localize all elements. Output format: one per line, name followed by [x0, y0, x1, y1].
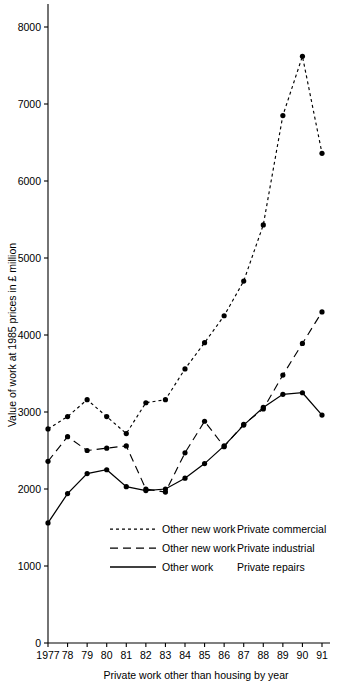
data-point: [300, 54, 305, 59]
data-point: [124, 484, 129, 489]
data-point: [319, 151, 324, 156]
x-axis-tick-label: 78: [62, 649, 74, 661]
data-point: [182, 476, 187, 481]
x-axis-tick-label: 89: [277, 649, 289, 661]
series-line-2: [48, 393, 322, 523]
legend-label-right: Private industrial: [237, 542, 315, 554]
y-axis-tick-label: 5000: [18, 252, 42, 264]
x-axis-tick-label: 79: [81, 649, 93, 661]
data-point: [104, 414, 109, 419]
y-axis-tick-label: 4000: [18, 329, 42, 341]
x-axis-tick-label: 91: [316, 649, 328, 661]
x-axis-tick-label: 80: [101, 649, 113, 661]
data-point: [300, 341, 305, 346]
y-axis-tick-label: 8000: [18, 21, 42, 33]
x-axis-title: Private work other than housing by year: [103, 669, 289, 681]
legend-label-right: Private commercial: [237, 523, 326, 535]
series-line-1: [48, 312, 322, 492]
line-chart: 010002000300040005000600070008000 197778…: [0, 0, 348, 685]
legend-label-left: Other work: [162, 561, 214, 573]
chart-legend: Other new workPrivate commercialOther ne…: [110, 523, 326, 573]
data-point: [241, 279, 246, 284]
y-axis-tick-label: 3000: [18, 406, 42, 418]
data-point: [104, 467, 109, 472]
data-point: [202, 419, 207, 424]
y-axis-tick-label: 7000: [18, 98, 42, 110]
data-point: [85, 448, 90, 453]
data-point: [319, 309, 324, 314]
x-axis-tick-label: 82: [140, 649, 152, 661]
y-axis-tick-label: 1000: [18, 560, 42, 572]
legend-label-left: Other new work: [162, 523, 236, 535]
x-axis-tick-label: 84: [179, 649, 191, 661]
data-point: [280, 392, 285, 397]
y-axis-title: Value of work at 1985 prices in £ millio…: [6, 243, 18, 427]
y-axis-tick-label: 2000: [18, 483, 42, 495]
data-point: [300, 390, 305, 395]
data-point: [85, 471, 90, 476]
x-axis-tick-label: 86: [218, 649, 230, 661]
chart-figure: 010002000300040005000600070008000 197778…: [0, 0, 348, 685]
legend-label-right: Private repairs: [237, 561, 305, 573]
data-point: [124, 443, 129, 448]
data-point: [222, 443, 227, 448]
data-point: [261, 222, 266, 227]
data-point: [182, 450, 187, 455]
series-line-0: [48, 56, 322, 433]
data-point: [104, 446, 109, 451]
data-point: [163, 397, 168, 402]
x-axis-tick-label: 1977: [36, 649, 60, 661]
data-point: [65, 434, 70, 439]
data-point: [202, 461, 207, 466]
data-point: [222, 313, 227, 318]
y-axis: 010002000300040005000600070008000: [18, 4, 48, 649]
data-point: [143, 488, 148, 493]
data-point: [124, 431, 129, 436]
x-axis-tick-label: 90: [297, 649, 309, 661]
data-point: [143, 400, 148, 405]
x-axis: 19777879808182838485868788899091: [36, 643, 330, 661]
data-point: [163, 486, 168, 491]
x-axis-tick-label: 87: [238, 649, 250, 661]
data-point: [261, 405, 266, 410]
data-point: [85, 397, 90, 402]
data-point: [280, 372, 285, 377]
y-axis-tick-label: 6000: [18, 175, 42, 187]
data-point: [319, 412, 324, 417]
legend-label-left: Other new work: [162, 542, 236, 554]
data-series-group: [45, 54, 324, 526]
data-point: [45, 426, 50, 431]
x-axis-tick-label: 81: [120, 649, 132, 661]
x-axis-tick-label: 85: [199, 649, 211, 661]
data-point: [65, 491, 70, 496]
x-axis-tick-label: 83: [160, 649, 172, 661]
data-point: [280, 113, 285, 118]
data-point: [45, 520, 50, 525]
data-point: [65, 414, 70, 419]
data-point: [182, 366, 187, 371]
y-axis-tick-label: 0: [35, 637, 41, 649]
data-point: [241, 422, 246, 427]
data-point: [202, 340, 207, 345]
data-point: [45, 459, 50, 464]
x-axis-tick-label: 88: [257, 649, 269, 661]
